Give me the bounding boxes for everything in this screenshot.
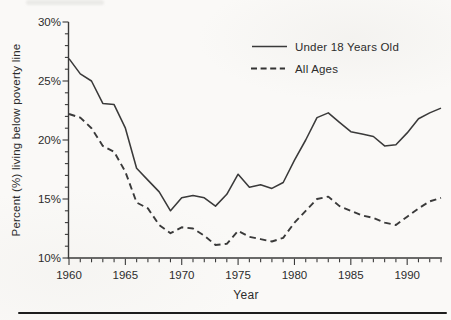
x-tick-label: 1990 xyxy=(394,269,420,281)
y-tick-label: 20% xyxy=(38,134,61,146)
x-tick-label: 1980 xyxy=(282,269,308,281)
series-line-under-18-years-old xyxy=(69,59,441,211)
x-tick-label: 1985 xyxy=(338,269,364,281)
chart-legend: Under 18 Years Old All Ages xyxy=(251,40,399,75)
legend-item-under-18: Under 18 Years Old xyxy=(251,40,399,53)
y-axis-title: Percent (%) living below poverty line xyxy=(10,44,22,237)
legend-label-all-ages: All Ages xyxy=(295,63,338,75)
legend-item-all-ages: All Ages xyxy=(251,62,399,75)
poverty-chart-page: 10%15%20%25%30%1960196519701975198019851… xyxy=(0,0,451,320)
x-tick-label: 1975 xyxy=(225,269,251,281)
legend-solid-line-sample xyxy=(251,40,288,53)
y-tick-label: 25% xyxy=(38,75,61,87)
x-tick-label: 1960 xyxy=(56,269,82,281)
x-tick-label: 1965 xyxy=(113,269,139,281)
y-tick-label: 30% xyxy=(38,16,61,28)
series-line-all-ages xyxy=(69,114,441,245)
y-tick-label: 15% xyxy=(38,193,61,205)
x-axis-title: Year xyxy=(233,288,258,302)
x-tick-label: 1970 xyxy=(169,269,195,281)
legend-dashed-line-sample xyxy=(251,62,288,75)
y-tick-label: 10% xyxy=(38,252,61,264)
legend-label-under-18: Under 18 Years Old xyxy=(295,41,399,53)
